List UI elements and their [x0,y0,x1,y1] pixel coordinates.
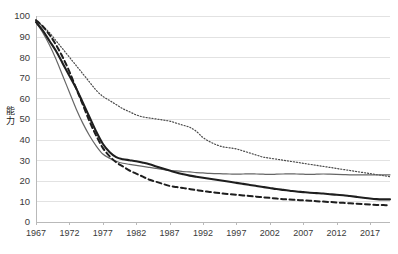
x-tick-label: 2017 [360,228,380,238]
x-tick-label: 1982 [126,228,146,238]
x-tick-label: 2002 [260,228,280,238]
y-tick-label: 10 [19,196,30,207]
x-tick-label: 1967 [26,228,46,238]
x-tick-label: 1972 [59,228,79,238]
x-tick-label: 2007 [293,228,313,238]
y-tick-label: 20 [19,175,30,186]
y-tick-label: 50 [19,113,30,124]
y-axis-title: 能力 [6,105,15,126]
y-tick-label: 70 [19,72,30,83]
y-tick-label: 40 [19,134,30,145]
y-tick-label: 90 [19,31,30,42]
y-axis-title-char: 能 [6,105,15,116]
x-axis-tick-labels: 1967197219771982198719921997200220072012… [26,228,380,238]
series-line-dashed-series [36,20,390,205]
y-tick-label: 0 [25,216,30,227]
x-tick-label: 1977 [93,228,113,238]
y-axis-title-char: 力 [6,115,15,126]
x-tick-label: 2012 [327,228,347,238]
chart-canvas: 0102030405060708090100 19671972197719821… [0,0,398,254]
data-series-group [36,20,390,205]
y-tick-label: 100 [14,10,30,21]
x-tick-label: 1992 [193,228,213,238]
line-chart: 0102030405060708090100 19671972197719821… [0,0,398,254]
y-tick-label: 60 [19,93,30,104]
x-tick-label: 1997 [226,228,246,238]
x-tick-label: 1987 [160,228,180,238]
series-line-thick-solid-series [36,22,390,199]
y-tick-label: 30 [19,155,30,166]
y-tick-label: 80 [19,52,30,63]
y-axis-tick-labels: 0102030405060708090100 [14,10,30,227]
